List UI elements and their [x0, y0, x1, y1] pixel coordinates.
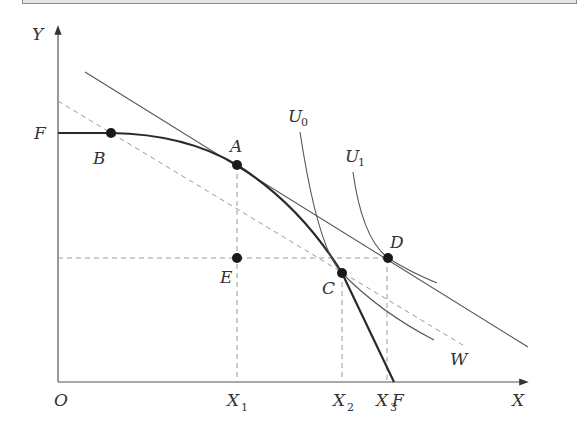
point-b [106, 128, 116, 138]
indifference-curve-u1 [353, 172, 437, 283]
point-e-label: E [219, 267, 233, 287]
x2-label: X [331, 390, 346, 410]
tangent-line [85, 72, 528, 347]
point-c [337, 268, 347, 278]
ppf-label-y: F [33, 123, 47, 143]
ppf-diagram: Y F B A E C D W U 0 U 1 O X 1 X 2 X 3 F … [0, 0, 588, 433]
point-a [232, 160, 242, 170]
y-axis-label: Y [32, 24, 45, 44]
u1-subscript: 1 [358, 156, 365, 169]
x-axis-label: X [510, 390, 525, 410]
ppf-curve [58, 133, 394, 382]
point-d-label: D [389, 232, 404, 252]
x1-subscript: 1 [241, 401, 248, 414]
point-a-label: A [228, 136, 242, 156]
x2-subscript: 2 [347, 401, 354, 414]
point-d [383, 253, 393, 263]
u0-subscript: 0 [301, 116, 308, 129]
x1-label: X [225, 390, 240, 410]
point-b-label: B [92, 148, 106, 168]
indifference-curve-u0 [300, 132, 434, 340]
origin-label: O [54, 390, 68, 410]
world-price-line-label: W [450, 349, 469, 369]
point-c-label: C [322, 278, 335, 298]
x3-label: X [374, 390, 389, 410]
world-price-line [58, 101, 466, 347]
ppf-label-x: F [391, 390, 405, 410]
point-e [232, 253, 242, 263]
